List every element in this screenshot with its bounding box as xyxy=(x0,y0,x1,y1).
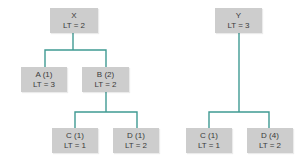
node-a: A (1) LT = 3 xyxy=(21,67,67,92)
connector-y-branch xyxy=(209,112,269,128)
node-x-d: D (1) LT = 2 xyxy=(113,128,159,153)
node-d-lead-time: LT = 2 xyxy=(125,141,147,151)
node-x-title: X xyxy=(71,11,76,21)
node-y-c: C (1) LT = 1 xyxy=(186,128,232,153)
node-c-title: C (1) xyxy=(200,131,218,141)
node-y-title: Y xyxy=(236,11,241,21)
node-d-title: D (1) xyxy=(127,131,145,141)
node-b-title: B (2) xyxy=(97,70,114,80)
node-x-lead-time: LT = 2 xyxy=(63,21,85,31)
node-y: Y LT = 3 xyxy=(215,8,262,33)
node-b-lead-time: LT = 2 xyxy=(94,80,116,90)
node-a-lead-time: LT = 3 xyxy=(33,80,55,90)
node-c-title: C (1) xyxy=(66,131,84,141)
product-structure-diagram: X LT = 2 A (1) LT = 3 B (2) LT = 2 C (1)… xyxy=(0,0,304,163)
node-x: X LT = 2 xyxy=(50,8,98,33)
connector-x-branch xyxy=(45,50,106,67)
connector-b-branch xyxy=(75,112,137,128)
node-y-d: D (4) LT = 2 xyxy=(247,128,293,153)
node-d-lead-time: LT = 2 xyxy=(259,141,281,151)
node-a-title: A (1) xyxy=(36,70,53,80)
node-d-title: D (4) xyxy=(261,131,279,141)
node-y-lead-time: LT = 3 xyxy=(227,21,249,31)
node-x-c: C (1) LT = 1 xyxy=(52,128,98,153)
node-b: B (2) LT = 2 xyxy=(82,67,129,92)
node-c-lead-time: LT = 1 xyxy=(64,141,86,151)
node-c-lead-time: LT = 1 xyxy=(198,141,220,151)
